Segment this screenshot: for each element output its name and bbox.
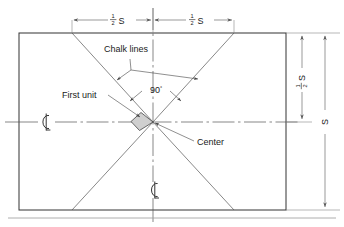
- first-unit-shape: [131, 113, 153, 131]
- dimension-label-top-right: 1 2 S: [189, 13, 204, 26]
- top-right-unit: S: [198, 16, 204, 26]
- construction-layout-diagram: 1 2 S 1 2 S 1: [0, 0, 344, 227]
- top-left-numerator: 1: [111, 13, 114, 19]
- first-unit-label: First unit: [62, 90, 97, 100]
- centerline-symbol-bottom: [151, 182, 159, 199]
- chalk-lines-callout: Chalk lines: [104, 44, 198, 80]
- chalk-line-lower-left: [72, 122, 153, 210]
- dimension-label-right-outer: S: [320, 119, 330, 125]
- chalk-line-upper-right: [153, 33, 234, 122]
- centerline-symbol-left: [43, 114, 51, 131]
- center-label: Center: [197, 137, 224, 147]
- top-right-numerator: 1: [190, 13, 193, 19]
- center-leader: [155, 123, 194, 141]
- dimension-label-right-inner: 1 2 S: [295, 75, 308, 89]
- angle-callout-90: 90°: [130, 85, 181, 101]
- chalk-lines-label: Chalk lines: [104, 44, 149, 54]
- diagram-canvas: 1 2 S 1 2 S 1: [0, 0, 344, 227]
- angle-arrow-right: [170, 91, 181, 101]
- first-unit-callout: First unit: [62, 90, 140, 117]
- top-dimension-group: 1 2 S 1 2 S: [72, 8, 234, 33]
- right-inner-denominator: 2: [302, 84, 308, 87]
- top-left-denominator: 2: [111, 20, 114, 26]
- right-outer-unit: S: [320, 119, 330, 125]
- top-right-denominator: 2: [190, 20, 193, 26]
- right-dimension-group: 1 2 S S: [286, 33, 340, 210]
- angle-value-label: 90°: [150, 85, 162, 95]
- top-left-unit: S: [119, 16, 125, 26]
- right-inner-numerator: 1: [295, 84, 301, 87]
- chalk-leader-left: [117, 59, 131, 80]
- right-inner-unit: S: [297, 75, 307, 81]
- dimension-label-top-left: 1 2 S: [110, 13, 125, 26]
- chalk-line-lower-right: [153, 122, 234, 210]
- angle-arrow-left: [130, 91, 142, 101]
- chalk-leader-right: [131, 70, 198, 79]
- first-unit-leader: [108, 95, 140, 117]
